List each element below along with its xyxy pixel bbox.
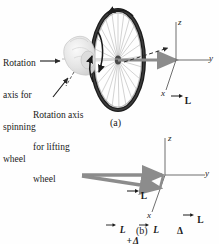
rotation-axis-spinning-line-2: axis for xyxy=(3,90,36,101)
axis-label-y-b: y xyxy=(205,168,209,178)
vector-label-delta-L: Δ L xyxy=(168,183,204,244)
rotation-axis-spinning-line-3: spinning xyxy=(3,122,36,133)
panel-label-b: (b) xyxy=(136,225,148,236)
vector-symbol-L-1: L xyxy=(120,225,126,235)
vector-arrow-glyph-dL xyxy=(183,191,193,195)
vector-arrow-glyph-Lb xyxy=(127,167,148,171)
rotation-axis-lifting-line-2: for lifting xyxy=(33,142,83,153)
vector-arrow-glyph-L2 xyxy=(139,201,148,205)
rotation-axis-lifting-label: Rotation axis for lifting wheel xyxy=(33,89,83,206)
vector-delta-L xyxy=(160,176,163,188)
axis-label-y-a: y xyxy=(209,53,213,63)
rotation-axis-spinning-label: Rotation axis for spinning wheel xyxy=(3,37,36,186)
vector-plus-sign: + xyxy=(126,236,133,244)
vector-symbol-L-3: L xyxy=(197,215,203,225)
vector-arrow-glyph-La xyxy=(171,72,192,76)
vector-label-L-a: L xyxy=(161,64,191,128)
physics-figure: Rotation axis for spinning wheel Rotatio… xyxy=(0,0,219,244)
vector-symbol-L-a: L xyxy=(185,96,191,106)
rotation-axis-spinning-line-4: wheel xyxy=(3,154,36,165)
vector-arrow-glyph-L1 xyxy=(106,201,115,205)
rotation-axis-lifting-line-1: Rotation axis xyxy=(33,110,83,121)
panel-label-a: (a) xyxy=(110,117,121,128)
vector-label-L-plus-delta-L: L +Δ L xyxy=(96,193,159,244)
axis-label-z-b: z xyxy=(168,133,172,143)
vector-symbol-L-2: L xyxy=(153,225,159,235)
rotation-axis-spinning-line-1: Rotation xyxy=(3,58,36,69)
axis-label-z-a: z xyxy=(178,17,182,27)
rotation-axis-lifting-line-3: wheel xyxy=(33,174,83,185)
